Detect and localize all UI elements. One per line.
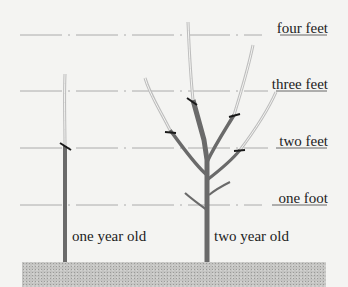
height-label-two-feet: two feet [279,133,328,150]
height-label-four-feet: four feet [277,20,328,37]
ground [22,262,326,287]
one-year-old-tree [60,74,71,262]
height-label-one-foot: one foot [278,190,328,207]
tree-label-one-year-old: one year old [72,228,146,245]
tree-label-two-year-old: two year old [214,228,289,245]
height-label-three-feet: three feet [272,76,328,93]
cut-mark [234,150,245,151]
cut-mark [165,132,176,133]
two-year-old-tree [145,22,276,262]
